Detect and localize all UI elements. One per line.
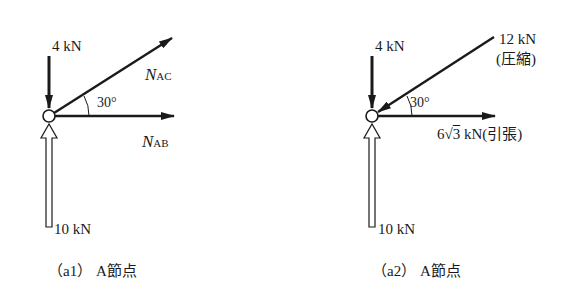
member-ac-value: 12 kN	[499, 32, 536, 47]
angle-label: 30°	[410, 96, 430, 110]
member-ac-label: NAC	[145, 66, 172, 83]
member-state: (引張)	[482, 126, 522, 142]
member-ac-state: (圧縮)	[496, 52, 536, 67]
load-label-bottom: 10 kN	[54, 222, 91, 237]
member-ab-label: 6√3 kN(引張)	[437, 127, 522, 142]
caption-a2: （a2） A節点	[372, 264, 461, 279]
load-label-bottom: 10 kN	[378, 222, 415, 237]
reaction-arrow-up-icon	[364, 124, 380, 227]
angle-arc-icon	[84, 96, 89, 116]
node-a-icon	[366, 110, 378, 122]
unit: kN	[464, 126, 482, 142]
member-symbol: N	[145, 65, 156, 84]
reaction-arrow-up-icon	[41, 124, 57, 227]
node-a-icon	[43, 110, 55, 122]
load-label-top: 4 kN	[52, 39, 82, 54]
member-ab-label: NAB	[142, 133, 169, 150]
force-diagrams	[0, 0, 582, 307]
sqrt-icon: √	[445, 126, 453, 142]
caption-a1: （a1） A節点	[48, 264, 137, 279]
coefficient: 6	[437, 126, 445, 142]
load-label-top: 4 kN	[375, 39, 405, 54]
member-subscript: AC	[156, 70, 171, 82]
angle-label: 30°	[97, 96, 117, 110]
member-symbol: N	[142, 132, 153, 151]
member-subscript: AB	[153, 137, 168, 149]
